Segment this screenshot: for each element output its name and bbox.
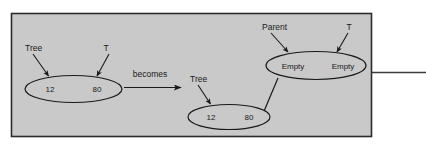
after-child-node-left-value: Empty bbox=[282, 62, 305, 71]
after-child-node-right-value: Empty bbox=[332, 62, 355, 71]
after-tree-label: Tree bbox=[190, 74, 207, 84]
after-root-node-right-value: 80 bbox=[245, 113, 254, 122]
before-node-right-value: 80 bbox=[93, 85, 102, 94]
after-root-node-left-value: 12 bbox=[207, 113, 216, 122]
after-parent-label: Parent bbox=[262, 22, 288, 32]
tree-diagram-canvas: Tree T 12 80 becomes Tree 12 80 bbox=[0, 0, 426, 154]
before-tree-label: Tree bbox=[25, 43, 42, 53]
before-node-left-value: 12 bbox=[46, 85, 55, 94]
before-t-label: T bbox=[103, 43, 108, 53]
figure-root: Tree T 12 80 becomes Tree 12 80 bbox=[0, 0, 426, 154]
becomes-label: becomes bbox=[133, 69, 168, 79]
after-t-label: T bbox=[346, 22, 351, 32]
